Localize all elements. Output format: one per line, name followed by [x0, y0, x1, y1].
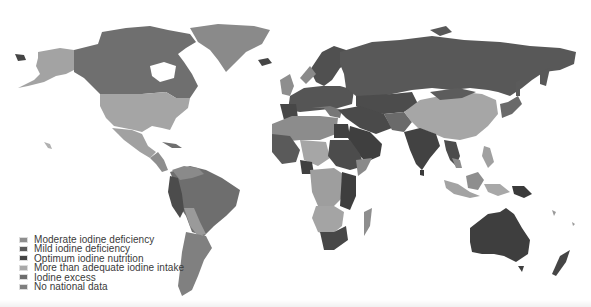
oceania [470, 208, 575, 276]
legend-swatch [19, 284, 28, 290]
canada [74, 26, 198, 98]
mexico [112, 128, 156, 158]
sri-lanka [420, 170, 424, 176]
hawaii [44, 142, 52, 149]
new-zealand [552, 250, 570, 276]
bottom-edge [0, 300, 591, 307]
tasmania [518, 266, 524, 272]
borneo [466, 172, 484, 190]
cuba [162, 142, 182, 148]
legend-swatch [19, 274, 28, 280]
australia [470, 208, 530, 262]
madagascar [364, 208, 372, 236]
novaya-zemlya [430, 26, 452, 36]
legend-label: No national data [34, 282, 108, 291]
north-america [15, 24, 272, 172]
papua-new-guinea [512, 186, 532, 198]
legend-swatch [19, 246, 28, 252]
legend-swatch [19, 265, 28, 271]
western-europe [288, 86, 354, 112]
aleutian-islands [15, 54, 26, 61]
legend-swatch [19, 237, 28, 243]
india [404, 128, 440, 170]
horn-of-africa [356, 158, 372, 176]
east-africa [340, 172, 356, 210]
korea-japan [500, 96, 522, 118]
usa [100, 92, 190, 132]
pacific-islands [552, 210, 575, 226]
alaska [18, 48, 74, 88]
sakhalin [516, 80, 520, 96]
uk-ireland [280, 74, 294, 96]
iceland [258, 58, 272, 66]
legend-swatch [19, 255, 28, 261]
legend-item-no-data: No national data [19, 282, 184, 291]
asia [404, 88, 532, 198]
russia [340, 26, 576, 98]
greenland [190, 24, 270, 72]
taiwan-philippines [482, 146, 494, 168]
indonesia-east [484, 184, 510, 196]
map-legend: Moderate iodine deficiency Mild iodine d… [19, 235, 184, 291]
egypt [334, 124, 350, 138]
